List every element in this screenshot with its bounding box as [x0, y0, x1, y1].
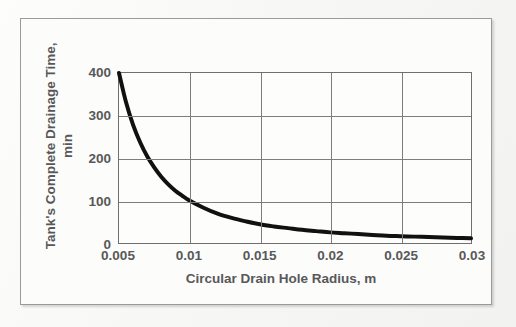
x-axis-ticks: 0.0050.010.0150.020.0250.03 [118, 248, 472, 268]
chart-frame: Tank's Complete Drainage Time, min 01002… [20, 18, 492, 305]
x-tick-label: 0.005 [101, 248, 135, 263]
x-tick-label: 0.025 [384, 248, 418, 263]
gridline-vertical [402, 73, 403, 243]
x-axis-title: Circular Drain Hole Radius, m [81, 271, 481, 286]
y-axis-ticks: 0100200300400 [61, 72, 111, 244]
y-tick-label: 200 [65, 151, 111, 166]
x-tick-label: 0.01 [176, 248, 202, 263]
y-tick-label: 400 [65, 65, 111, 80]
y-axis-title-line1: Tank's Complete Drainage Time, [43, 31, 60, 261]
gridline-vertical [331, 73, 332, 243]
gridline-horizontal [119, 159, 471, 160]
chart-page: Tank's Complete Drainage Time, min 01002… [0, 0, 516, 327]
gridline-vertical [190, 73, 191, 243]
x-tick-label: 0.03 [459, 248, 485, 263]
data-series-curve [119, 73, 471, 243]
x-tick-label: 0.015 [243, 248, 277, 263]
y-tick-label: 300 [65, 108, 111, 123]
plot-area [118, 72, 472, 244]
y-tick-label: 100 [65, 194, 111, 209]
drainage-time-line [119, 73, 471, 238]
gridline-horizontal [119, 202, 471, 203]
x-tick-label: 0.02 [317, 248, 343, 263]
gridline-vertical [261, 73, 262, 243]
gridline-horizontal [119, 116, 471, 117]
